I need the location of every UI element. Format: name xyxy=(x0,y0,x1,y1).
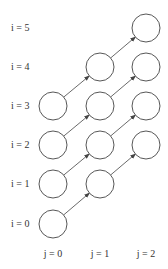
node-i4-j1 xyxy=(86,53,114,81)
row-label-i4: i = 4 xyxy=(11,61,29,72)
arrow-i3j0-to-i4j1 xyxy=(64,76,89,97)
col-label-j2: j = 2 xyxy=(136,248,155,259)
col-label-j1: j = 1 xyxy=(90,248,109,259)
arrow-i2j0-to-i3j1 xyxy=(64,115,89,136)
col-labels: j = 0 j = 1 j = 2 xyxy=(43,248,155,259)
node-i3-j0 xyxy=(39,92,67,120)
arrow-i4j1-to-i5j2 xyxy=(111,37,136,58)
row-label-i5: i = 5 xyxy=(11,22,29,33)
col-label-j0: j = 0 xyxy=(43,248,62,259)
node-i2-j0 xyxy=(39,131,67,159)
node-i2-j1 xyxy=(86,131,114,159)
node-i5-j2 xyxy=(132,14,160,42)
row-labels: i = 5 i = 4 i = 3 i = 2 i = 1 i = 0 xyxy=(11,22,29,229)
arrow-i1j1-to-i2j2 xyxy=(111,154,136,175)
row-label-i3: i = 3 xyxy=(11,100,29,111)
node-i3-j1 xyxy=(86,92,114,120)
node-i0-j0 xyxy=(39,210,67,238)
node-i1-j1 xyxy=(86,170,114,198)
node-i2-j2 xyxy=(132,131,160,159)
node-i1-j0 xyxy=(39,170,67,198)
node-i4-j2 xyxy=(132,53,160,81)
row-label-i1: i = 1 xyxy=(11,178,29,189)
arrow-i3j1-to-i4j2 xyxy=(111,76,136,97)
arrow-i2j1-to-i3j2 xyxy=(111,115,136,136)
arrow-i0j0-to-i1j1 xyxy=(64,193,90,215)
node-i3-j2 xyxy=(132,92,160,120)
lattice-diagram: i = 5 i = 4 i = 3 i = 2 i = 1 i = 0 j = … xyxy=(0,0,168,269)
nodes-group xyxy=(39,14,160,238)
row-label-i0: i = 0 xyxy=(11,218,29,229)
arrow-i1j0-to-i2j1 xyxy=(64,154,89,175)
row-label-i2: i = 2 xyxy=(11,139,29,150)
